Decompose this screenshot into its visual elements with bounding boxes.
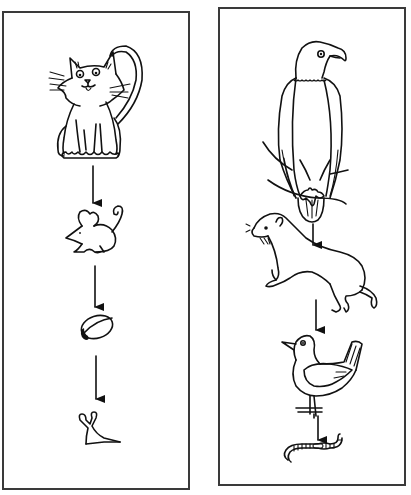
- worm-icon: [284, 434, 342, 462]
- eagle-icon: [263, 42, 348, 222]
- slug-icon: [79, 412, 120, 444]
- stoat-icon: [246, 214, 377, 313]
- mouse-icon: [66, 206, 123, 253]
- illustrations-layer: [0, 0, 411, 495]
- seed-icon: [78, 312, 115, 343]
- food-chain-diagram: cat mouse seed slug eagle stoat bird wor…: [0, 0, 411, 495]
- bird-icon: [282, 336, 362, 418]
- cat-icon: [49, 46, 142, 158]
